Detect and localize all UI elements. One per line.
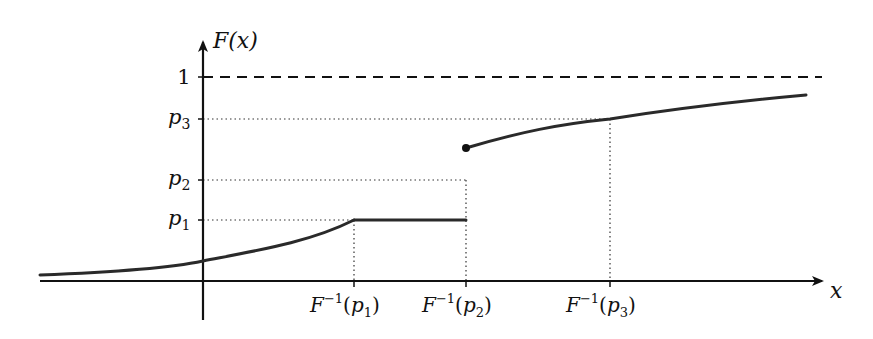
y-tick-label-p2: p2 <box>168 166 190 193</box>
y-tick-label-one: 1 <box>177 65 190 89</box>
x-tick-label-q2: F−1(p2) <box>421 291 492 320</box>
x-tick-label-q1: F−1(p1) <box>309 291 380 320</box>
x-tick-label-q3: F−1(p3) <box>565 291 636 320</box>
cdf-diagram: F(x)xp1p2p31F−1(p1)F−1(p2)F−1(p3) <box>0 0 873 339</box>
jump-point <box>462 144 470 152</box>
y-tick-label-p1: p1 <box>168 206 190 233</box>
y-tick-label-p3: p3 <box>168 105 190 132</box>
guide-lines <box>203 77 822 281</box>
axes <box>40 42 822 320</box>
x-axis-label: x <box>830 278 843 303</box>
cdf-curve <box>40 95 806 275</box>
labels: F(x)xp1p2p31F−1(p1)F−1(p2)F−1(p3) <box>168 28 843 320</box>
curve-left <box>40 220 354 275</box>
curve-right <box>466 95 806 148</box>
y-axis-label: F(x) <box>212 28 258 53</box>
